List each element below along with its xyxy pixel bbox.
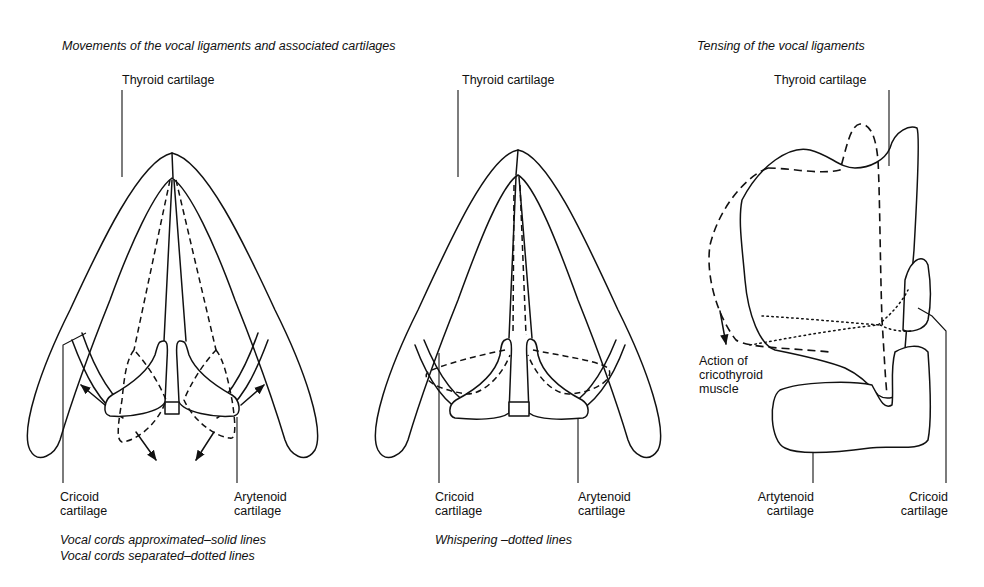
panel-whispering bbox=[375, 90, 660, 483]
panel-tensing bbox=[709, 90, 946, 483]
arrow-icon bbox=[81, 385, 105, 405]
cricoid-body bbox=[772, 346, 930, 452]
larynx-diagrams bbox=[0, 0, 984, 587]
arrow-icon bbox=[241, 385, 264, 405]
panel-approximated-separated bbox=[27, 90, 317, 483]
arrow-icon bbox=[196, 432, 214, 460]
arrow-icon bbox=[720, 311, 726, 344]
arrow-icon bbox=[136, 432, 156, 460]
